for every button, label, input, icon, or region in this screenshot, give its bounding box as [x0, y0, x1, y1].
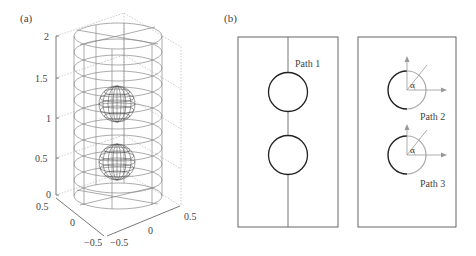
path3-dark-arc: [388, 136, 407, 174]
right-arrow-icon: [441, 88, 447, 93]
right-arrow-icon: [441, 153, 447, 158]
z-tick-1.5: 1.5: [35, 73, 48, 84]
lower-circle: [269, 136, 308, 175]
upper-sphere: [99, 86, 135, 122]
alpha-symbol: α: [410, 145, 415, 155]
y-tick-neg0.5: −0.5: [110, 237, 128, 248]
y-tick-0.5: 0.5: [184, 211, 197, 222]
z-tick-2: 2: [44, 31, 49, 42]
path3-label: Path 3: [420, 178, 445, 189]
path1-label: Path 1: [295, 58, 320, 69]
path2-diagram: α Path 2: [388, 56, 447, 122]
z-tick-0.5: 0.5: [35, 153, 48, 164]
path23-box: α Path 2 α Path 3: [358, 37, 456, 227]
panel-b: (b) Path 1 α Path 2: [224, 12, 456, 227]
figure: (a) 2 1.5 1 0.5 0 0.5 0 −0.5 −0.5: [0, 0, 476, 256]
up-arrow-icon: [405, 56, 410, 62]
path1-box: Path 1: [238, 37, 338, 227]
path3-diagram: α Path 3: [388, 124, 447, 189]
alpha-symbol: α: [410, 80, 415, 90]
x-tick-0.5: 0.5: [36, 201, 49, 212]
path2-dark-arc: [388, 71, 407, 109]
z-tick-labels: 2 1.5 1 0.5 0: [35, 31, 51, 200]
panel-b-label: (b): [224, 12, 237, 25]
z-tick-1: 1: [46, 113, 51, 124]
panel-a: (a) 2 1.5 1 0.5 0 0.5 0 −0.5 −0.5: [20, 12, 197, 248]
cylinder-wireframe: [74, 23, 162, 209]
z-axis: [56, 36, 59, 195]
panel-a-label: (a): [20, 12, 33, 25]
y-tick-0: 0: [148, 225, 153, 236]
z-tick-0: 0: [46, 189, 51, 200]
lower-sphere: [99, 144, 135, 180]
x-tick-neg0.5: −0.5: [84, 237, 102, 248]
upper-circle: [269, 73, 308, 112]
path2-label: Path 2: [420, 111, 445, 122]
up-arrow-icon: [405, 124, 410, 130]
x-tick-0: 0: [70, 217, 75, 228]
